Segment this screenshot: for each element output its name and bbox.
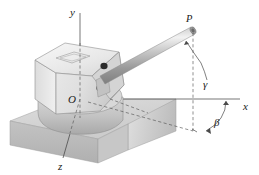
figure-container: y x z O P γ β [0,0,259,175]
gamma-arc [186,41,201,63]
origin-label: O [68,93,76,105]
y-axis-label: y [69,6,75,18]
beta-angle-label: β [213,116,220,128]
gamma-angle-label: γ [203,78,208,90]
beta-arrowhead-top [223,101,229,105]
point-p-label: P [185,13,193,24]
beta-arrowhead-bottom [206,128,211,134]
z-axis-label: z [57,160,63,172]
turret-coordinate-diagram: y x z O P γ β [0,0,259,175]
x-axis-label: x [242,100,248,112]
trunnion-upper-icon [100,63,107,69]
turret-body [35,43,124,134]
